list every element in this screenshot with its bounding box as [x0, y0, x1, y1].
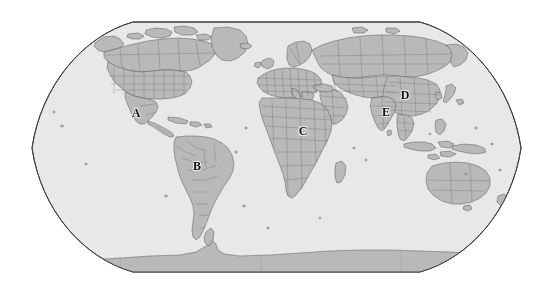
map-label-a: A — [132, 107, 141, 119]
map-label-c: C — [299, 125, 308, 137]
map-label-d: D — [401, 89, 410, 101]
map-label-b: B — [193, 160, 201, 172]
map-label-e: E — [382, 106, 390, 118]
world-map-figure: A B C D E — [0, 0, 552, 294]
world-map-svg — [0, 0, 552, 294]
